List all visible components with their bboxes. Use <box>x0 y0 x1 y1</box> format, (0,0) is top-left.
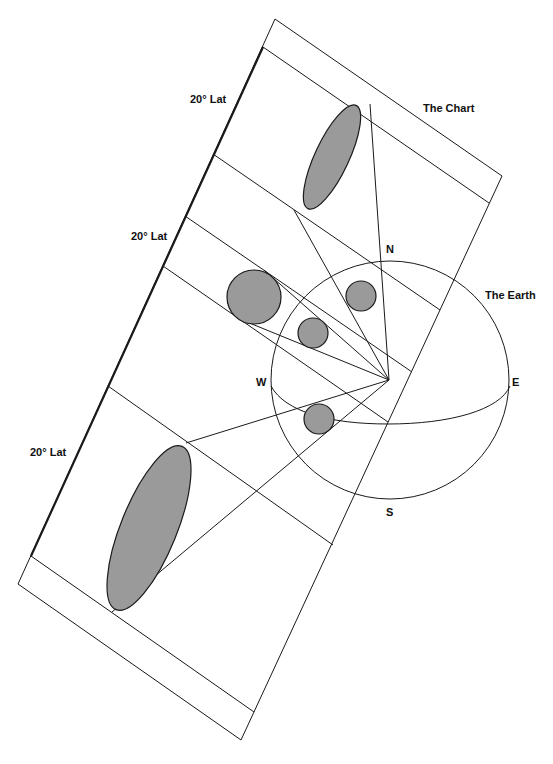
chart-inner-top <box>263 47 489 203</box>
label-the-chart: The Chart <box>423 102 474 114</box>
earth-outline <box>271 261 509 499</box>
label-lat-bottom: 20° Lat <box>30 446 66 458</box>
circle-small-middle <box>298 318 328 348</box>
label-north: N <box>386 243 394 255</box>
projection-diagram <box>0 0 553 764</box>
label-lat-middle: 20° Lat <box>131 230 167 242</box>
label-lat-top: 20° Lat <box>190 93 226 105</box>
circle-small-upper <box>346 281 376 311</box>
chart-ellipse-bottom <box>90 436 208 620</box>
band-line-2 <box>185 216 412 372</box>
label-west: W <box>256 376 266 388</box>
label-the-earth: The Earth <box>485 289 536 301</box>
circle-large <box>227 270 281 324</box>
label-east: E <box>512 376 519 388</box>
circle-small-lower <box>304 404 334 434</box>
label-south: S <box>386 506 393 518</box>
chart-ellipse-top <box>293 98 372 216</box>
